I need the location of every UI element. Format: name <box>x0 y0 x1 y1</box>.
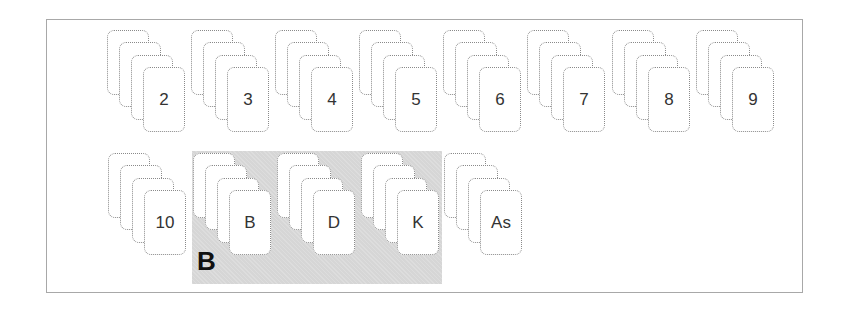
card-stack-2: 2 <box>107 30 189 136</box>
card-front: 9 <box>732 67 774 132</box>
card-rank: 5 <box>411 90 420 110</box>
card-rank: 9 <box>748 90 757 110</box>
card-stack-d: D <box>277 153 359 259</box>
card-front: 7 <box>563 67 605 132</box>
card-front: As <box>480 190 522 255</box>
card-front: 5 <box>395 67 437 132</box>
card-stack-as: As <box>444 153 526 259</box>
card-stack-10: 10 <box>108 153 190 259</box>
card-stack-6: 6 <box>443 30 525 136</box>
card-front: D <box>313 190 355 255</box>
card-front: 6 <box>479 67 521 132</box>
card-front: K <box>397 190 439 255</box>
card-stack-b: B <box>193 153 275 259</box>
card-rank: 10 <box>156 213 175 233</box>
card-rank: 4 <box>327 90 336 110</box>
card-front: 2 <box>143 67 185 132</box>
card-stack-k: K <box>361 153 443 259</box>
card-stack-9: 9 <box>696 30 778 136</box>
card-front: 4 <box>311 67 353 132</box>
card-stack-4: 4 <box>275 30 357 136</box>
card-stack-3: 3 <box>191 30 273 136</box>
card-rank: 3 <box>243 90 252 110</box>
card-rank: D <box>328 213 340 233</box>
card-rank: 8 <box>664 90 673 110</box>
card-rank: As <box>491 213 511 233</box>
card-rank: 7 <box>579 90 588 110</box>
card-front: B <box>229 190 271 255</box>
card-rank: B <box>244 213 255 233</box>
card-rank: 6 <box>495 90 504 110</box>
card-stack-7: 7 <box>527 30 609 136</box>
card-stack-5: 5 <box>359 30 441 136</box>
card-rank: K <box>412 213 423 233</box>
card-stack-8: 8 <box>612 30 694 136</box>
card-front: 3 <box>227 67 269 132</box>
card-front: 10 <box>144 190 186 255</box>
card-rank: 2 <box>159 90 168 110</box>
card-front: 8 <box>648 67 690 132</box>
